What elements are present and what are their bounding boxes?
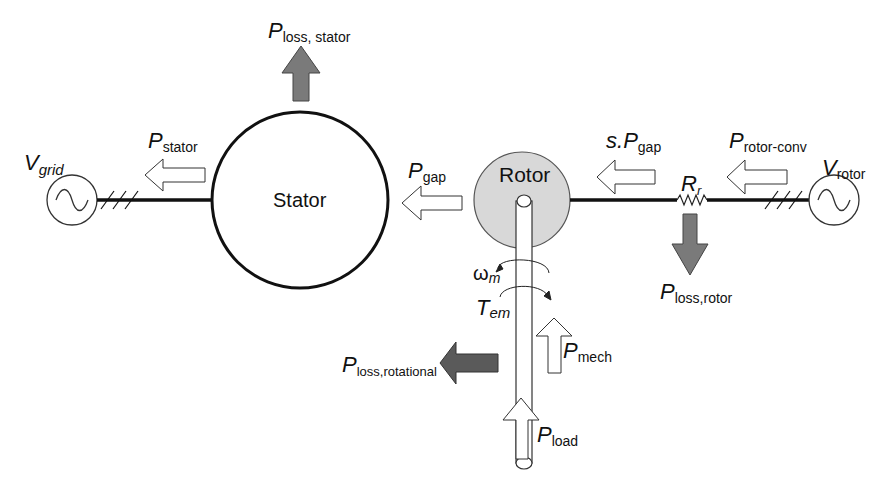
load-power-arrow-icon: [503, 398, 539, 459]
s-p-gap-label: s.Pgap: [606, 130, 661, 152]
loss-stator-arrow-icon: [282, 46, 320, 101]
v-grid-label: Vgrid: [24, 152, 64, 174]
v-rotor-label: Vrotor: [822, 157, 865, 179]
grid-voltage-source-icon: [47, 175, 97, 225]
p-load-label: Pload: [537, 424, 578, 446]
p-loss-rotor-label: Ploss,rotor: [660, 281, 732, 303]
p-rotor-conv-label: Protor-conv: [729, 130, 807, 152]
slip-gap-power-arrow-icon: [597, 160, 655, 194]
p-loss-rotational-label: Ploss,rotational: [342, 354, 437, 376]
stator-label: Stator: [273, 190, 326, 210]
loss-rotor-arrow-icon: [672, 214, 708, 275]
stator-power-arrow-icon: [145, 159, 205, 191]
rotor-label: Rotor: [499, 164, 550, 185]
rotor-conv-power-arrow-icon: [727, 160, 787, 194]
power-flow-diagram: [0, 0, 892, 488]
resistor-icon: [677, 195, 707, 205]
p-gap-label: Pgap: [408, 160, 446, 182]
loss-rotational-arrow-icon: [440, 342, 498, 384]
rotor-voltage-source-icon: [809, 175, 859, 225]
p-loss-stator-label: Ploss, stator: [268, 20, 350, 42]
p-stator-label: Pstator: [148, 130, 198, 152]
omega-m-label: ωm: [473, 263, 500, 283]
p-mech-label: Pmech: [563, 340, 612, 362]
t-em-label: Tem: [476, 297, 510, 319]
gap-power-arrow-icon: [402, 186, 462, 220]
r-r-label: Rr: [681, 173, 701, 195]
